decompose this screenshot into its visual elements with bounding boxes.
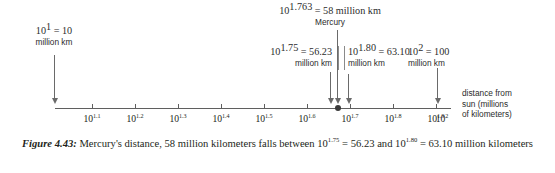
tick-label-base: 10	[298, 113, 308, 124]
tick-label-exponent: 1.1	[93, 113, 101, 119]
figure-caption-exponent-2: 1.80	[406, 136, 418, 143]
annotation-left-base: 10	[36, 25, 46, 36]
figure-caption-text-2: = 56.23 and 10	[339, 138, 405, 149]
figure-caption-text-1: Mercury's distance, 58 million kilometer…	[79, 138, 327, 149]
axis-tick	[350, 104, 351, 109]
tick-label-exponent: 1.7	[351, 113, 359, 119]
arrow-upper-bound	[348, 74, 349, 99]
tick-label-exponent: 1.6	[308, 113, 316, 119]
figure-caption-exponent-1: 1.75	[328, 136, 340, 143]
mercury-data-point	[335, 105, 341, 111]
tick-label-exponent: 1.5	[265, 113, 273, 119]
tick-label-base: 10	[212, 113, 222, 124]
axis-tick-label: 101.6	[287, 113, 327, 124]
annotation-mercury-exponent: 1.763	[289, 1, 312, 12]
annotation-right-base: 10	[408, 46, 418, 57]
annotation-mercury: 101.763 = 58 million km Mercury	[250, 6, 410, 27]
annotation-lower-base: 10	[270, 46, 280, 57]
axis-tick	[393, 104, 394, 109]
figure-container: 101 = 10 million km 101.763 = 58 million…	[0, 0, 555, 173]
axis-tick-label: 101.3	[158, 113, 198, 124]
annotation-mercury-value: = 58 million km	[312, 5, 381, 16]
tick-label-base: 10	[83, 113, 93, 124]
annotation-upper-value: = 63.10	[376, 46, 410, 57]
axis-tick-label: 101.2	[115, 113, 155, 124]
axis-tick	[307, 104, 308, 109]
annotation-left-bound: 101 = 10 million km	[14, 26, 94, 47]
annotation-divider-left	[338, 46, 339, 70]
annotation-mercury-math: 101.763 = 58 million km	[250, 6, 410, 17]
tick-label-base: 10	[126, 113, 136, 124]
axis-tick-label: 101.7	[330, 113, 370, 124]
annotation-upper-exponent: 1.80	[358, 42, 376, 53]
annotation-right-units: million km	[408, 58, 494, 69]
annotation-lower-math: 101.75 = 56.23	[248, 47, 332, 58]
tick-label-base: 10	[436, 113, 446, 124]
figure-caption-label: Figure 4.43:	[22, 138, 79, 149]
axis-tick-label: 101.4	[201, 113, 241, 124]
axis-title-line-1: distance from	[462, 88, 512, 99]
annotation-lower-exponent: 1.75	[280, 42, 298, 53]
tick-label-exponent: 1.2	[136, 113, 144, 119]
tick-label-exponent: 1.3	[179, 113, 187, 119]
annotation-left-math: 101 = 10	[14, 26, 94, 37]
axis-tick	[92, 104, 93, 109]
tick-label-base: 10	[384, 113, 394, 124]
axis-tick	[221, 104, 222, 109]
annotation-lower-value: = 56.23	[298, 46, 332, 57]
axis-tick-label: 101.1	[72, 113, 112, 124]
axis-tick	[135, 104, 136, 109]
figure-caption-text-3: = 63.10 million kilometers	[417, 138, 533, 149]
tick-label-exponent: 1.4	[222, 113, 230, 119]
axis-tick-label: 102	[422, 113, 462, 124]
arrow-right-bound	[437, 68, 438, 99]
annotation-right-bound: 102 = 100 million km	[408, 47, 494, 68]
axis-title-line-3: of kilometers)	[462, 109, 512, 120]
axis-tick	[436, 104, 437, 109]
annotation-divider-right	[344, 46, 345, 70]
tick-label-exponent: 1.8	[394, 113, 402, 119]
annotation-upper-base: 10	[348, 46, 358, 57]
axis-title-line-2: sun (millions	[462, 99, 512, 110]
annotation-left-value: = 10	[51, 25, 72, 36]
tick-label-base: 10	[341, 113, 351, 124]
tick-label-base: 10	[255, 113, 265, 124]
tick-label-base: 10	[169, 113, 179, 124]
axis-tick	[264, 104, 265, 109]
arrow-left-bound	[54, 55, 55, 99]
axis-tick-label: 101.8	[373, 113, 413, 124]
figure-caption: Figure 4.43: Mercury's distance, 58 mill…	[0, 137, 555, 151]
arrow-lower-bound	[330, 72, 331, 99]
axis-tick-label: 101.5	[244, 113, 284, 124]
axis-title: distance from sun (millions of kilometer…	[462, 88, 512, 120]
annotation-lower-units: million km	[248, 58, 332, 69]
annotation-mercury-base: 10	[279, 5, 289, 16]
annotation-right-value: = 100	[423, 46, 449, 57]
number-line-axis	[55, 108, 451, 109]
annotation-lower-bound: 101.75 = 56.23 million km	[248, 47, 332, 68]
annotation-left-units: million km	[14, 37, 94, 48]
annotation-right-math: 102 = 100	[408, 47, 494, 58]
axis-tick	[178, 104, 179, 109]
annotation-mercury-name: Mercury	[250, 17, 410, 28]
tick-label-exponent: 2	[445, 113, 448, 119]
